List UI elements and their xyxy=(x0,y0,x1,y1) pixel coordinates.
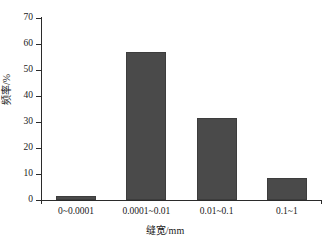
bar-chart: 010203040506070 0~0.00010.0001~0.010.01~… xyxy=(0,0,330,248)
x-axis-right-end-tick xyxy=(321,200,322,204)
bar xyxy=(197,118,237,200)
bar xyxy=(126,52,166,200)
y-axis-tick-label: 0 xyxy=(0,195,33,205)
x-axis-title: 缝宽/mm xyxy=(0,225,330,236)
y-axis-tick-label: 70 xyxy=(0,13,33,23)
y-axis-tick-label: 10 xyxy=(0,169,33,179)
y-axis-tick xyxy=(36,200,41,201)
y-axis-title: 频率/% xyxy=(1,60,12,120)
x-axis-tick-label: 0.1~1 xyxy=(242,206,330,216)
y-axis-tick-label: 60 xyxy=(0,39,33,49)
bar-series xyxy=(41,18,322,200)
x-axis-line xyxy=(41,200,322,201)
bar xyxy=(267,178,307,200)
x-axis-left-end-tick xyxy=(41,200,42,204)
bar xyxy=(56,196,96,200)
y-axis-tick-label: 20 xyxy=(0,143,33,153)
